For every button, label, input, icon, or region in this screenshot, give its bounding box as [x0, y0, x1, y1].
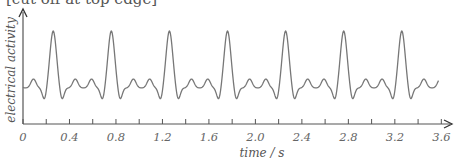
y-axis: [19, 9, 27, 124]
x-tick-label: 3.6: [432, 130, 450, 144]
x-axis: [23, 120, 452, 128]
x-tick-label: 1.2: [153, 130, 171, 144]
x-tick-label: 1.6: [200, 130, 218, 144]
x-tick-label: 3.2: [386, 130, 404, 144]
x-tick-label: 2.0: [245, 130, 264, 144]
ecg-chart: 00.40.81.21.62.02.42.83.23.6 time / s el…: [0, 0, 456, 167]
x-axis-label: time / s: [240, 146, 285, 160]
x-tick-labels: 00.40.81.21.62.02.42.83.23.6: [19, 130, 450, 144]
ecg-trace-line: [23, 31, 439, 99]
x-tick-label: 2.8: [338, 130, 357, 144]
y-axis-label: electrical activity: [4, 17, 18, 123]
x-tick-label: 0: [19, 130, 26, 144]
x-tick-label: 0.8: [107, 130, 125, 144]
x-ticks: [23, 119, 441, 124]
x-tick-label: 2.4: [292, 130, 311, 144]
x-tick-label: 0.4: [60, 130, 78, 144]
